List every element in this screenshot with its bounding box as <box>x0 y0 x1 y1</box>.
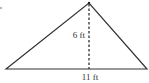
base-label: 11 ft <box>82 72 99 82</box>
triangle-diagram: 6 ft 11 ft <box>0 0 149 83</box>
height-label: 6 ft <box>73 30 86 40</box>
apex-point <box>88 2 90 4</box>
marker-dot <box>0 7 2 9</box>
